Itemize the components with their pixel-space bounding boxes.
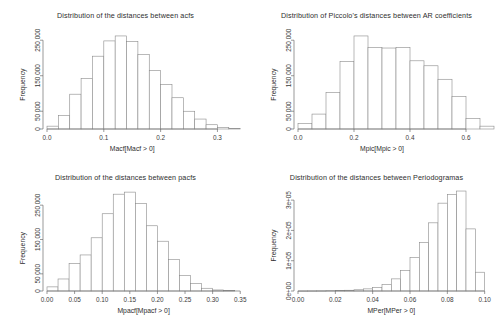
x-tick-label: 0.0 — [294, 134, 303, 141]
histogram-bar — [69, 264, 80, 291]
histogram-bar — [368, 47, 382, 129]
y-tick-label: 0 — [34, 289, 41, 293]
histogram-bar — [124, 192, 135, 291]
histogram-bar — [419, 243, 428, 291]
histogram-bar — [401, 270, 410, 291]
histogram-bar — [104, 41, 115, 129]
y-tick-label: 50 000 — [34, 101, 41, 121]
x-tick-label: 0.35 — [234, 296, 247, 303]
histogram-bar — [202, 288, 213, 291]
x-tick-label: 0.00 — [292, 296, 305, 303]
x-tick-label: 0.02 — [329, 296, 342, 303]
histogram-bar — [80, 255, 91, 291]
y-tick-label: 0 — [285, 127, 292, 131]
y-tick-label: 3e+05 — [285, 191, 292, 209]
x-axis-title: Mpic[Mpic > 0] — [360, 145, 404, 153]
x-tick-label: 0.25 — [179, 296, 192, 303]
x-tick-label: 0.4 — [406, 134, 415, 141]
histogram-bar — [191, 283, 202, 291]
histogram-bar — [452, 96, 466, 129]
histogram-bar — [447, 195, 456, 291]
histogram-bar — [429, 223, 438, 291]
histogram-bar — [438, 203, 447, 291]
histogram-bar — [382, 48, 396, 129]
histogram-piccolo: 0.00.20.40.6Mpic[Mpic > 0]050 000150 000… — [251, 0, 502, 162]
panel-piccolo: Distribution of Piccolo's distances betw… — [251, 0, 502, 162]
y-tick-label: 50 000 — [285, 101, 292, 121]
histogram-bar — [113, 194, 124, 291]
panel-acf: Distribution of the distances between ac… — [0, 0, 251, 162]
y-axis-title: Frequency — [270, 229, 278, 262]
x-tick-label: 0.2 — [350, 134, 359, 141]
y-tick-label: 250 000 — [34, 193, 41, 217]
y-axis-title: Frequency — [19, 231, 27, 264]
y-tick-label: 1e+05 — [285, 251, 292, 269]
histogram-bar — [410, 61, 424, 129]
histogram-bar — [340, 62, 354, 129]
histogram-bar — [47, 287, 58, 291]
x-tick-label: 0.6 — [462, 134, 471, 141]
histogram-bar — [424, 66, 438, 129]
x-tick-label: 0.2 — [156, 134, 165, 141]
histogram-bar — [180, 276, 191, 291]
panel-pacf: Distribution of the distances between pa… — [0, 162, 251, 324]
histogram-acf: 0.00.10.20.3Macf[Macf > 0]050 000150 000… — [0, 0, 251, 162]
x-tick-label: 0.10 — [478, 296, 491, 303]
histogram-bar — [135, 203, 146, 291]
y-tick-label: 150 000 — [34, 64, 41, 88]
histogram-bar — [480, 126, 494, 129]
histogram-periodogram: 0.000.020.040.060.080.10MPer[MPer > 0]0e… — [251, 162, 502, 324]
x-tick-label: 0.20 — [151, 296, 164, 303]
y-tick-label: 0e+00 — [285, 282, 292, 300]
histogram-bar — [91, 238, 102, 291]
histogram-bar — [47, 126, 58, 129]
x-tick-label: 0.04 — [366, 296, 379, 303]
histogram-bar — [127, 42, 138, 129]
histogram-bar — [115, 36, 126, 129]
x-tick-label: 0.05 — [68, 296, 81, 303]
histogram-bar — [161, 85, 172, 129]
x-tick-label: 0.06 — [404, 296, 417, 303]
x-tick-label: 0.15 — [124, 296, 137, 303]
histogram-bar — [312, 114, 326, 129]
x-tick-label: 0.00 — [41, 296, 54, 303]
figure-grid: Distribution of the distances between ac… — [0, 0, 502, 324]
histogram-bar — [410, 258, 419, 291]
histogram-bar — [298, 124, 312, 129]
histogram-bar — [457, 191, 466, 291]
histogram-bar — [396, 48, 410, 129]
y-tick-label: 150 000 — [285, 64, 292, 88]
x-tick-label: 0.10 — [96, 296, 109, 303]
histogram-bar — [92, 56, 103, 129]
x-tick-label: 0.0 — [43, 134, 52, 141]
histogram-bar — [102, 214, 113, 291]
panel-periodogram: Distribution of the distances between Pe… — [251, 162, 502, 324]
histogram-bar — [391, 279, 400, 291]
histogram-bar — [206, 125, 217, 129]
x-axis-title: Mpacf[Mpacf > 0] — [117, 307, 169, 315]
histogram-bar — [168, 259, 179, 291]
x-axis-title: Macf[Macf > 0] — [110, 145, 155, 153]
histogram-bar — [326, 92, 340, 129]
histogram-bar — [157, 241, 168, 291]
y-axis-title: Frequency — [270, 68, 278, 101]
histogram-bar — [172, 98, 183, 129]
histogram-bar — [81, 79, 92, 129]
histogram-bar — [58, 279, 69, 291]
histogram-bar — [373, 287, 382, 291]
x-axis-title: MPer[MPer > 0] — [367, 307, 415, 315]
histogram-bar — [138, 54, 149, 129]
histogram-bar — [438, 79, 452, 129]
histogram-bar — [217, 128, 228, 129]
y-tick-label: 150 000 — [34, 228, 41, 252]
histogram-bar — [229, 128, 240, 129]
histogram-bar — [146, 226, 157, 291]
histogram-bar — [58, 116, 69, 129]
histogram-bar — [466, 229, 475, 291]
histogram-bar — [183, 111, 194, 129]
x-tick-label: 0.1 — [99, 134, 108, 141]
y-axis-title: Frequency — [19, 68, 27, 101]
y-tick-label: 0 — [34, 127, 41, 131]
histogram-pacf: 0.000.050.100.150.200.250.300.35Mpacf[Mp… — [0, 162, 251, 324]
histogram-bar — [466, 118, 480, 129]
